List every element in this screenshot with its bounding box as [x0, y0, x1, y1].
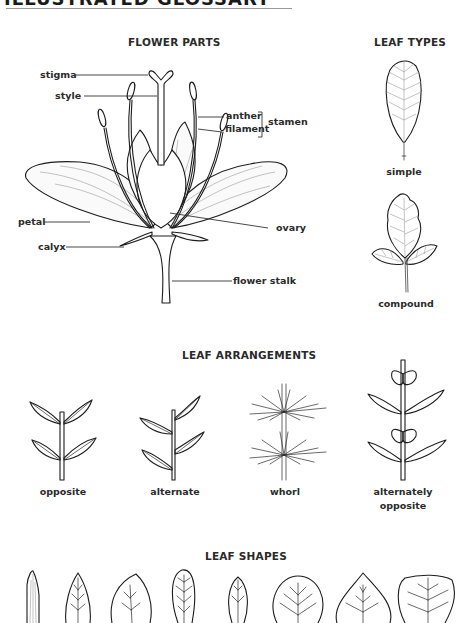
oblanceolate-leaf-icon: [172, 570, 194, 623]
linear-leaf-icon: [27, 571, 39, 623]
orbicular-leaf-icon: [273, 576, 323, 623]
leaf-shapes-drawings: [0, 0, 464, 623]
oval-leaf-icon: [229, 577, 248, 623]
obovate-leaf-icon: [398, 575, 454, 623]
ovate-leaf-icon: [336, 573, 391, 623]
elliptic-leaf-icon: [111, 574, 151, 623]
lanceolate-leaf-icon: [66, 573, 91, 623]
